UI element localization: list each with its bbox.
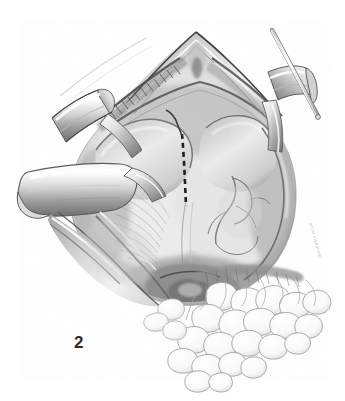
surgical-illustration [0, 0, 345, 401]
pencil-grain [20, 20, 330, 380]
figure-number-label: 2 [74, 334, 83, 351]
figure-container: 2 artist signature [0, 0, 345, 401]
